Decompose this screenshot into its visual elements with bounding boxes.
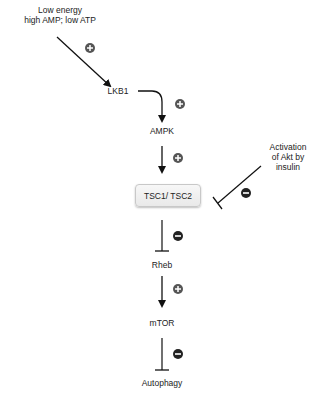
edge-akt-tsc-inhibition xyxy=(213,166,261,209)
edge-energy-lkb1 xyxy=(57,37,110,86)
node-tsc1-tsc2: TSC1/ TSC2 xyxy=(135,184,201,207)
edge-mtor-autophagy-inhibition xyxy=(155,338,169,370)
node-lkb1: LKB1 xyxy=(104,86,132,96)
node-akt-line3: insulin xyxy=(262,162,314,172)
edge-tsc-rheb-inhibition xyxy=(155,220,169,251)
plus-badge-icon xyxy=(173,153,183,163)
node-low-energy: Low energy high AMP; low ATP xyxy=(8,5,112,25)
minus-badge-icon xyxy=(173,349,183,359)
node-low-energy-line2: high AMP; low ATP xyxy=(8,15,112,25)
plus-badge-icon xyxy=(173,284,183,294)
node-ampk: AMPK xyxy=(146,126,178,136)
node-rheb: Rheb xyxy=(146,260,178,270)
node-tsc1-tsc2-label: TSC1/ TSC2 xyxy=(144,191,192,201)
minus-badge-icon xyxy=(173,231,183,241)
node-mtor: mTOR xyxy=(144,318,180,328)
edge-lkb1-ampk xyxy=(138,91,162,121)
plus-badge-icon xyxy=(85,43,95,53)
node-akt-line2: of Akt by xyxy=(262,152,314,162)
node-low-energy-line1: Low energy xyxy=(8,5,112,15)
plus-badge-icon xyxy=(175,99,185,109)
node-autophagy: Autophagy xyxy=(136,378,188,388)
node-akt-activation: Activation of Akt by insulin xyxy=(262,142,314,172)
node-akt-line1: Activation xyxy=(262,142,314,152)
minus-badge-icon xyxy=(241,188,251,198)
